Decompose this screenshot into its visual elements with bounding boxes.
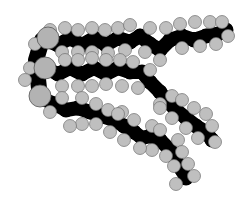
- hydrogen-atom: [56, 80, 69, 93]
- hydrogen-atom: [139, 46, 152, 59]
- hydrogen-atom: [166, 112, 179, 125]
- oxygen-atom: [34, 57, 56, 79]
- hydrogen-atom: [188, 170, 201, 183]
- hydrogen-atom: [174, 18, 187, 31]
- hydrogen-atom: [112, 22, 125, 35]
- hydrogen-atom: [90, 98, 103, 111]
- hydrogen-atom: [76, 118, 89, 131]
- hydrogen-atom: [194, 40, 207, 53]
- hydrogen-atom: [176, 42, 189, 55]
- hydrogen-atom: [56, 92, 69, 105]
- hydrogen-atom: [127, 56, 140, 69]
- hydrogen-atom: [182, 158, 195, 171]
- hydrogen-atom: [160, 150, 173, 163]
- hydrogen-atom: [99, 24, 112, 37]
- hydrogen-atom: [134, 142, 147, 155]
- hydrogen-atom: [132, 82, 145, 95]
- hydrogen-atom: [86, 80, 99, 93]
- hydrogen-atom: [216, 16, 229, 29]
- hydrogen-atom: [104, 126, 117, 139]
- hydrogen-atom: [72, 24, 85, 37]
- hydrogen-atom: [170, 178, 183, 191]
- hydrogen-atom: [189, 16, 202, 29]
- molecule-model: [0, 0, 243, 200]
- hydrogen-atom: [144, 64, 157, 77]
- hydrogen-atom: [154, 102, 167, 115]
- hydrogen-atom: [144, 22, 157, 35]
- hydrogen-atom: [19, 74, 32, 87]
- hydrogen-atom: [180, 122, 193, 135]
- hydrogen-atom: [90, 118, 103, 131]
- hydrogen-atom: [100, 54, 113, 67]
- hydrogen-atom: [204, 16, 217, 29]
- hydrogen-atom: [100, 78, 113, 91]
- oxygen-atom: [29, 85, 51, 107]
- hydrogen-atom: [64, 120, 77, 133]
- hydrogen-atom: [176, 146, 189, 159]
- hydrogen-atom: [86, 52, 99, 65]
- hydrogen-atom: [112, 108, 125, 121]
- hydrogen-atom: [86, 22, 99, 35]
- hydrogen-atom: [76, 92, 89, 105]
- hydrogen-atom: [124, 19, 137, 32]
- hydrogen-atom: [128, 114, 141, 127]
- hydrogen-atom: [160, 22, 173, 35]
- hydrogen-atom: [44, 106, 57, 119]
- hydrogen-atom: [72, 80, 85, 93]
- hydrogen-atom: [206, 120, 219, 133]
- hydrogen-atom: [172, 134, 185, 147]
- hydrogen-atom: [188, 102, 201, 115]
- hydrogen-atom: [222, 30, 235, 43]
- hydrogen-atom: [209, 136, 222, 149]
- hydrogen-atom: [146, 144, 159, 157]
- oxygen-atom: [37, 27, 59, 49]
- hydrogen-atom: [72, 54, 85, 67]
- hydrogen-atom: [154, 54, 167, 67]
- hydrogen-atom: [118, 134, 131, 147]
- hydrogen-atom: [59, 22, 72, 35]
- hydrogen-atom: [192, 132, 205, 145]
- hydrogen-atom: [114, 54, 127, 67]
- hydrogen-atom: [200, 108, 213, 121]
- hydrogen-atom: [210, 38, 223, 51]
- hydrogen-atom: [59, 54, 72, 67]
- hydrogen-atom: [154, 124, 167, 137]
- hydrogen-atom: [176, 94, 189, 107]
- hydrogen-atom: [116, 80, 129, 93]
